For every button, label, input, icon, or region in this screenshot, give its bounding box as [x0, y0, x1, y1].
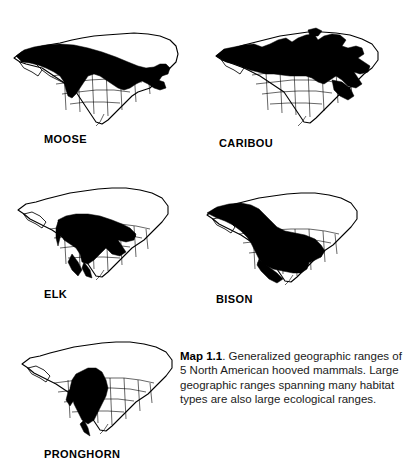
map-panel-elk	[14, 176, 186, 284]
map-label-pronghorn: PRONGHORN	[44, 448, 120, 460]
map-panel-bison	[203, 181, 375, 289]
map-label-moose: MOOSE	[44, 133, 87, 145]
map-graphic-bison	[203, 181, 375, 289]
map-panel-caribou	[212, 18, 392, 130]
bison-map-svg	[203, 181, 375, 289]
map-label-caribou: CARIBOU	[219, 137, 273, 149]
map-label-elk: ELK	[44, 288, 67, 300]
pronghorn-map-svg	[18, 330, 188, 440]
map-panel-pronghorn	[18, 330, 188, 440]
map-label-bison: BISON	[216, 293, 253, 305]
elk-map-svg	[14, 176, 186, 284]
map-graphic-caribou	[212, 18, 392, 130]
moose-map-svg	[8, 18, 188, 130]
map-graphic-pronghorn	[18, 330, 188, 440]
figure-caption: Map 1.1. Generalized geographic ranges o…	[180, 349, 402, 407]
map-graphic-moose	[8, 18, 188, 130]
figure-caption-label: Map 1.1	[180, 350, 222, 362]
map-panel-moose	[8, 18, 188, 130]
caribou-map-svg	[212, 18, 392, 130]
range-map-figure: MOOSE	[0, 0, 405, 473]
map-graphic-elk	[14, 176, 186, 284]
